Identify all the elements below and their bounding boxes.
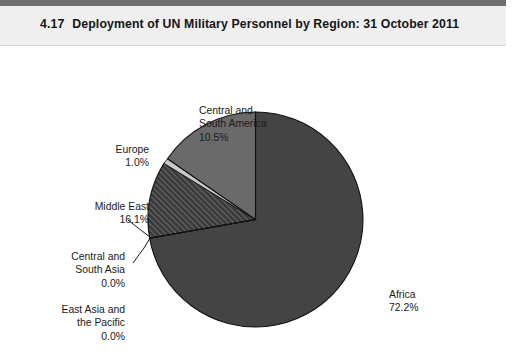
pie-label-line1: Central and bbox=[199, 104, 267, 117]
pie-label-line1: Central and bbox=[24, 250, 125, 263]
leader-line-east-asia-pacific bbox=[133, 238, 150, 263]
pie-label-central-south-asia: Central and South Asia 0.0% bbox=[24, 250, 125, 290]
pie-label-percent: 10.5% bbox=[199, 131, 267, 144]
pie-label-line1: Africa bbox=[389, 288, 418, 301]
pie-label-africa: Africa 72.2% bbox=[389, 288, 418, 315]
pie-label-line2: the Pacific bbox=[17, 316, 125, 329]
pie-label-europe: Europe 1.0% bbox=[60, 143, 149, 170]
pie-label-line1: Middle East bbox=[30, 200, 149, 213]
figure-number: 4.17 bbox=[40, 17, 64, 31]
pie-label-line2: South America bbox=[199, 117, 267, 130]
pie-label-line1: Europe bbox=[60, 143, 149, 156]
pie-label-central-south-america: Central and South America 10.5% bbox=[199, 104, 267, 144]
pie-label-percent: 0.0% bbox=[17, 330, 125, 343]
figure-title-text: Deployment of UN Military Personnel by R… bbox=[72, 17, 459, 31]
pie-label-line1: East Asia and bbox=[17, 303, 125, 316]
pie-label-middle-east: Middle East 16.1% bbox=[30, 200, 149, 227]
pie-label-percent: 72.2% bbox=[389, 301, 418, 314]
page-title: 4.17Deployment of UN Military Personnel … bbox=[40, 17, 459, 31]
pie-label-percent: 16.1% bbox=[30, 213, 149, 226]
pie-label-percent: 0.0% bbox=[24, 277, 125, 290]
pie-label-line2: South Asia bbox=[24, 263, 125, 276]
pie-label-percent: 1.0% bbox=[60, 156, 149, 169]
pie-label-east-asia-pacific: East Asia and the Pacific 0.0% bbox=[17, 303, 125, 343]
pie-chart: Central and South America 10.5% Europe 1… bbox=[0, 45, 518, 355]
